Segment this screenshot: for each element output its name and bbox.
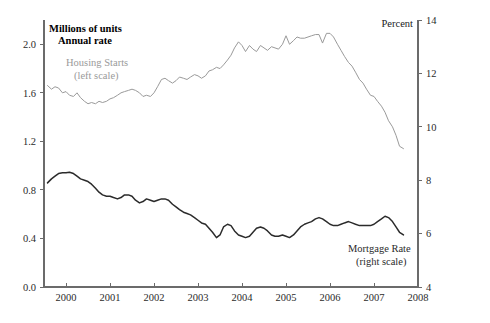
housing-starts-mortgage-rate-chart: 0.00.40.81.21.62.0 468101214 20002001200…: [0, 0, 490, 323]
mortgage-rate-annotation-line2: (right scale): [356, 256, 407, 268]
axis-titles: Millions of units Annual rate Percent: [49, 18, 413, 46]
left-axis-unit-line1: Millions of units: [49, 23, 122, 34]
x-tick-label: 2008: [408, 292, 429, 303]
left-axis-unit-line2: Annual rate: [58, 35, 112, 46]
x-tick-label: 2000: [56, 292, 77, 303]
left-tick-label: 0.4: [23, 233, 37, 244]
right-tick-label: 10: [426, 122, 437, 133]
mortgage-rate-line: [48, 172, 404, 237]
x-axis: 200020012002200320042005200620072008: [44, 283, 429, 303]
x-tick-label: 2004: [232, 292, 254, 303]
right-tick-label: 12: [426, 68, 437, 79]
housing-starts-annotation-line1: Housing Starts: [66, 57, 128, 68]
right-tick-label: 8: [426, 175, 431, 186]
x-tick-label: 2006: [320, 292, 341, 303]
x-tick-label: 2002: [144, 292, 165, 303]
x-tick-label: 2001: [100, 292, 121, 303]
left-tick-label: 1.2: [23, 136, 36, 147]
left-tick-label: 1.6: [23, 88, 36, 99]
x-tick-label: 2005: [276, 292, 297, 303]
x-tick-label: 2003: [188, 292, 209, 303]
series-annotations: Housing Starts (left scale) Mortgage Rat…: [66, 57, 411, 268]
left-tick-label: 0.0: [23, 282, 36, 293]
mortgage-rate-annotation-line1: Mortgage Rate: [348, 243, 411, 254]
left-tick-label: 0.8: [23, 185, 36, 196]
right-tick-label: 14: [426, 15, 437, 26]
x-tick-label: 2007: [364, 292, 385, 303]
right-axis-unit: Percent: [382, 18, 414, 29]
chart-canvas: 0.00.40.81.21.62.0 468101214 20002001200…: [0, 0, 490, 323]
left-tick-label: 2.0: [23, 39, 36, 50]
housing-starts-annotation-line2: (left scale): [74, 70, 119, 82]
right-tick-label: 6: [426, 228, 431, 239]
right-axis: 468101214: [418, 15, 437, 293]
left-axis: 0.00.40.81.21.62.0: [23, 20, 44, 293]
housing-starts-line: [48, 33, 404, 148]
